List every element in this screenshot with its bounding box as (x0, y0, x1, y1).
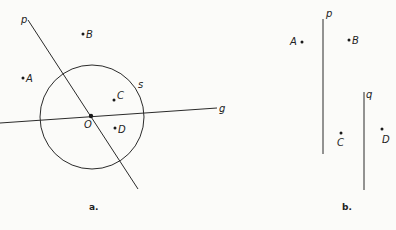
line-p-a (28, 20, 138, 189)
point-D-b (381, 128, 384, 131)
caption-a: a. (89, 202, 99, 212)
point-A-b (301, 41, 304, 44)
point-B-b (348, 39, 351, 42)
label-C-b: C (337, 137, 344, 148)
label-O: O (84, 119, 92, 130)
point-D-a (114, 127, 117, 130)
label-C-a: C (117, 90, 124, 101)
point-C-a (113, 99, 116, 102)
point-O (89, 114, 93, 118)
label-p-a: p (20, 14, 27, 25)
label-s: s (138, 79, 143, 90)
label-D-b: D (382, 134, 390, 145)
label-g: g (219, 103, 225, 114)
figure-a: p g s O A B C D a. (0, 14, 225, 212)
label-D-a: D (118, 124, 126, 135)
figure-svg: p g s O A B C D a. p q A B C D b. (0, 0, 396, 230)
label-q: q (366, 89, 372, 100)
label-A-b: A (289, 36, 297, 47)
line-g (0, 108, 217, 123)
point-B-a (82, 33, 85, 36)
point-A-a (22, 77, 25, 80)
point-C-b (340, 132, 343, 135)
caption-b: b. (342, 202, 352, 212)
label-B-b: B (352, 35, 359, 46)
label-A-a: A (25, 73, 33, 84)
label-B-a: B (86, 29, 93, 40)
figure-b: p q A B C D b. (289, 8, 390, 212)
geometry-figure: p g s O A B C D a. p q A B C D b. (0, 0, 396, 230)
label-p-b: p (325, 8, 332, 19)
